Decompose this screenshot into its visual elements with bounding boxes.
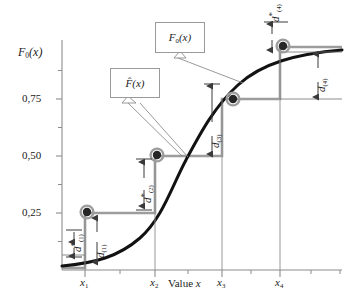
d-star-1-star: * (69, 242, 79, 246)
theoretical-cdf-curve (62, 50, 342, 266)
d-1-base: d (94, 253, 106, 259)
d-star-4-base: d (269, 17, 281, 23)
x-tick-x3-sub: 3 (222, 282, 225, 289)
callout-theoretical-tail: (x) (179, 31, 191, 43)
d-1-sub: (1) (100, 245, 107, 253)
label-d-star-4: d*(4) (268, 4, 282, 22)
y-axis-title-tail: (x) (29, 45, 42, 59)
d-4-sub: (4) (321, 79, 328, 87)
x-axis-minor-ticks (120, 270, 340, 274)
reference-lines (62, 52, 342, 255)
d-star-2-base: d (141, 198, 153, 204)
y-tick-label-025: 0,25 (22, 207, 41, 218)
label-d-star-2: d*(2) (140, 185, 154, 203)
x-tick-label-x1: x1 (80, 277, 88, 290)
leader-theoretical-line (178, 58, 243, 83)
label-d-1: d(1) (93, 245, 107, 258)
x-tick-label-x3: x3 (217, 277, 225, 290)
x-tick-label-x4: x4 (275, 277, 283, 290)
y-tick-label-050: 0,50 (22, 150, 41, 161)
d-3-base: d (209, 143, 221, 149)
d-star-1-sub: (1) (77, 234, 84, 242)
callout-theoretical-base: F (169, 31, 176, 43)
x-tick-x2-sub: 2 (155, 282, 158, 289)
d-3-sub: (3) (215, 135, 222, 143)
leader-empirical-line2 (140, 103, 188, 157)
d-star-1-base: d (71, 247, 83, 253)
d-4-base: d (315, 87, 327, 93)
label-d-4: d(4) (314, 79, 328, 92)
x-axis-title-lead: Value (168, 277, 196, 289)
label-d-star-1: d*(1) (70, 234, 84, 252)
d-star-2-sub: (2) (147, 185, 154, 193)
x-tick-label-x2: x2 (150, 277, 158, 290)
y-axis-title: F0(x) (18, 46, 42, 60)
x-axis-title: Value x (168, 278, 201, 289)
empirical-step-function (62, 47, 342, 268)
x-tick-x4-sub: 4 (280, 282, 283, 289)
callout-theoretical-cdf: F0(x) (155, 22, 205, 53)
d-star-2-star: * (139, 193, 149, 197)
label-d-3: d(3) (208, 135, 222, 148)
y-tick-label-075: 0,75 (22, 93, 41, 104)
figure-canvas: F0(x) 0,75 0,50 0,25 x1 x2 x3 x4 Value x… (0, 0, 349, 303)
callout-empirical-cdf: F̂(x) (110, 68, 160, 98)
x-axis-title-var: x (196, 277, 201, 289)
d-star-4-sub: (4) (275, 4, 282, 12)
callout-leaders (122, 51, 243, 157)
callout-empirical-tail: (x) (132, 77, 144, 89)
y-axis-major-ticks (56, 99, 62, 213)
step-markers (81, 40, 290, 219)
axes-group (56, 40, 342, 277)
d-star-4-star: * (267, 12, 277, 16)
x-tick-x1-sub: 1 (85, 282, 88, 289)
